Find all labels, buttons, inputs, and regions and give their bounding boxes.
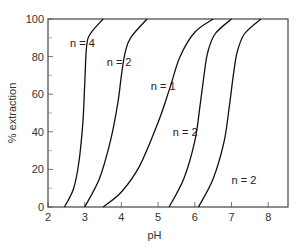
y-tick-label: 20 xyxy=(32,163,44,175)
curve-label: n = 2 xyxy=(173,126,198,138)
x-tick-label: 3 xyxy=(82,211,88,223)
y-tick-label: 0 xyxy=(38,201,44,213)
curve-line xyxy=(169,19,231,207)
x-tick-label: 5 xyxy=(155,211,161,223)
y-tick-label: 80 xyxy=(32,51,44,63)
x-tick-label: 6 xyxy=(192,211,198,223)
extraction-chart: 0204060801002345678pH% extractionn = 4n … xyxy=(0,0,298,250)
curve-line xyxy=(103,19,213,207)
x-tick-label: 2 xyxy=(45,211,51,223)
y-tick-label: 100 xyxy=(26,13,44,25)
x-tick-label: 7 xyxy=(228,211,234,223)
x-axis-label: pH xyxy=(147,229,161,241)
x-tick-label: 8 xyxy=(265,211,271,223)
y-axis-label: % extraction xyxy=(6,83,18,144)
y-tick-label: 40 xyxy=(32,126,44,138)
curve-label: n = 2 xyxy=(107,56,132,68)
curve-label: n = 4 xyxy=(70,37,95,49)
curve-label: n = 1 xyxy=(151,80,176,92)
y-tick-label: 60 xyxy=(32,88,44,100)
curve-label: n = 2 xyxy=(232,174,257,186)
x-tick-label: 4 xyxy=(118,211,124,223)
